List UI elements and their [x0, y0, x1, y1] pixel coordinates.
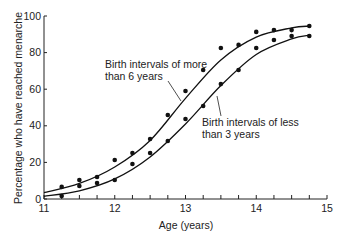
point-less-than-3-years — [307, 34, 312, 39]
x-axis-title: Age (years) — [159, 219, 213, 231]
point-more-than-6-years — [130, 151, 135, 156]
point-less-than-3-years — [183, 117, 188, 122]
y-tick-label: 20 — [29, 156, 41, 168]
data-points — [59, 24, 311, 199]
point-more-than-6-years — [59, 185, 64, 190]
point-more-than-6-years — [112, 158, 117, 163]
point-less-than-3-years — [130, 162, 135, 167]
point-more-than-6-years — [95, 175, 100, 180]
point-more-than-6-years — [236, 43, 241, 48]
annotation-less-than-3-years: Birth intervals of less than 3 years — [202, 96, 299, 140]
x-tick-label: 14 — [250, 202, 262, 214]
point-less-than-3-years — [95, 181, 100, 186]
chart-canvas: 0204060801001112131415 Birth intervals o… — [0, 0, 346, 236]
point-more-than-6-years — [183, 89, 188, 94]
point-more-than-6-years — [148, 137, 153, 142]
fit-curves — [44, 26, 309, 196]
annotation-more-than-6-years: Birth intervals of more than 6 years — [105, 58, 207, 101]
point-more-than-6-years — [219, 46, 224, 51]
point-more-than-6-years — [77, 178, 82, 183]
x-tick-label: 15 — [321, 202, 333, 214]
annotation-lower-line2: than 3 years — [202, 128, 260, 140]
x-tick-label: 12 — [109, 202, 121, 214]
point-less-than-3-years — [201, 104, 206, 109]
point-less-than-3-years — [77, 184, 82, 189]
point-less-than-3-years — [59, 194, 64, 199]
y-tick-label: 100 — [23, 10, 41, 22]
y-tick-label: 40 — [29, 119, 41, 131]
point-less-than-3-years — [148, 151, 153, 156]
curve-more-than-6-years — [44, 26, 309, 193]
axis-lines — [44, 16, 327, 199]
point-more-than-6-years — [166, 113, 171, 118]
x-tick-label: 11 — [39, 202, 50, 214]
annotation-upper-line1: Birth intervals of more — [105, 58, 207, 70]
point-less-than-3-years — [289, 34, 294, 39]
y-axis-title: Percentage who have reached menarche — [12, 12, 24, 204]
annotation-lower-line1: Birth intervals of less — [202, 116, 299, 128]
point-less-than-3-years — [254, 46, 259, 51]
point-less-than-3-years — [166, 139, 171, 144]
point-less-than-3-years — [236, 68, 241, 73]
y-tick-label: 80 — [29, 46, 41, 58]
menarche-chart: 0204060801001112131415 Birth intervals o… — [0, 0, 346, 236]
annotation-upper-leader — [168, 81, 181, 101]
point-less-than-3-years — [112, 178, 117, 183]
y-tick-label: 60 — [29, 83, 41, 95]
point-less-than-3-years — [272, 38, 277, 43]
point-less-than-3-years — [219, 82, 224, 87]
annotation-lower-leader — [217, 96, 221, 116]
point-more-than-6-years — [272, 28, 277, 33]
point-more-than-6-years — [307, 24, 312, 29]
x-tick-label: 13 — [180, 202, 192, 214]
annotation-upper-line2: than 6 years — [105, 70, 163, 82]
point-more-than-6-years — [289, 28, 294, 33]
point-more-than-6-years — [254, 30, 259, 35]
